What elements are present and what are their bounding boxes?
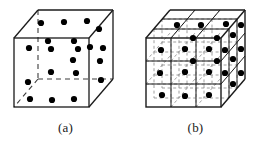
sample-point: [238, 46, 244, 52]
caption-a: (a): [0, 120, 131, 136]
cube-a-diagram: [0, 0, 131, 120]
cube-b-diagram: [130, 0, 261, 120]
sample-point: [238, 70, 244, 76]
sample-point: [27, 96, 33, 102]
sample-point: [49, 97, 55, 103]
sample-point: [100, 45, 106, 51]
sample-point: [190, 58, 196, 64]
sample-point: [222, 47, 228, 53]
sample-point: [230, 81, 236, 87]
sample-point: [71, 38, 77, 44]
sample-point: [214, 58, 220, 64]
sample-point: [75, 46, 81, 52]
sample-point: [214, 35, 220, 41]
sample-point: [198, 22, 204, 28]
sample-point: [73, 70, 79, 76]
sample-point: [222, 70, 228, 76]
sample-point: [84, 18, 90, 24]
grid-line: [146, 33, 170, 61]
panel-a: (a): [0, 0, 131, 148]
caption-b: (b): [130, 120, 261, 136]
sample-point: [61, 19, 67, 25]
sample-point: [158, 47, 164, 53]
sample-point: [48, 46, 54, 52]
sample-point: [98, 77, 104, 83]
sample-point: [71, 96, 77, 102]
grid-line: [146, 56, 170, 84]
sample-point: [96, 26, 102, 32]
cube-a-sample-points: [25, 18, 106, 103]
sample-point: [238, 22, 244, 28]
sample-point: [70, 57, 76, 63]
sample-point: [223, 21, 229, 27]
sample-point: [206, 92, 212, 98]
sample-point: [157, 70, 163, 76]
sample-point: [25, 79, 31, 85]
sample-point: [97, 58, 103, 64]
sample-point: [45, 38, 51, 44]
sample-point: [48, 69, 54, 75]
sample-point: [190, 35, 196, 41]
sample-point: [182, 69, 188, 75]
edge-bottom-right-connector: [89, 79, 113, 107]
figure-root: (a): [0, 0, 261, 148]
sample-point: [38, 20, 44, 26]
sample-point: [230, 56, 236, 62]
sample-point: [230, 32, 236, 38]
sample-point: [182, 93, 188, 99]
edge-top-left-connector: [14, 10, 38, 38]
grid-line: [171, 79, 195, 107]
sample-point: [26, 45, 32, 51]
panel-b: (b): [130, 0, 261, 148]
sample-point: [159, 92, 165, 98]
edge-top-left-connector: [146, 10, 170, 38]
sample-point: [206, 46, 212, 52]
sample-point: [206, 69, 212, 75]
sample-point: [87, 44, 93, 50]
sample-point: [182, 46, 188, 52]
edge-top-right-connector: [89, 10, 113, 38]
sample-point: [174, 22, 180, 28]
